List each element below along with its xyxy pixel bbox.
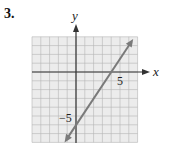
x-axis-label: x <box>152 64 159 79</box>
grid <box>32 37 138 143</box>
y-axis-arrow-icon <box>73 24 79 32</box>
tick-label-x-5: 5 <box>117 74 123 88</box>
y-axis-label: y <box>70 8 78 23</box>
x-axis-arrow-icon <box>142 69 150 75</box>
coordinate-plane: x y 5 −5 <box>0 0 170 156</box>
tick-label-y-neg5: −5 <box>59 111 72 125</box>
